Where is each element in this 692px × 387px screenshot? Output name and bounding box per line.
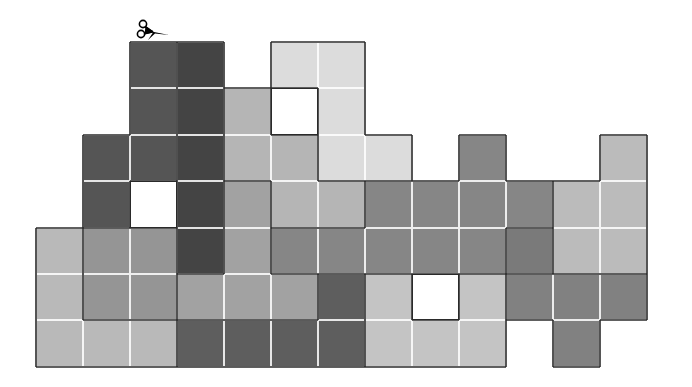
- puzzle-board: [0, 0, 692, 387]
- scissors-icon[interactable]: [136, 18, 172, 44]
- region-outlines: [0, 0, 692, 387]
